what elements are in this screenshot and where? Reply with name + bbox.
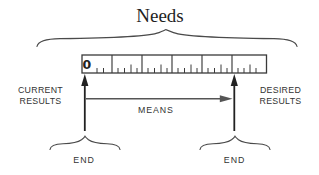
ruler-body xyxy=(82,55,267,73)
desired-results-label: DESIRED RESULTS xyxy=(259,85,301,107)
desired-results-line1: DESIRED xyxy=(260,85,301,95)
means-arrow-icon xyxy=(86,95,233,102)
means-label: MEANS xyxy=(138,105,174,115)
current-results-label: CURRENT RESULTS xyxy=(18,85,63,107)
needs-brace-icon xyxy=(37,30,297,47)
needs-title: Needs xyxy=(136,5,183,26)
end-label-right: END xyxy=(224,155,245,165)
end-brace-left-icon xyxy=(50,136,120,149)
desired-results-line2: RESULTS xyxy=(259,96,301,106)
current-results-line2: RESULTS xyxy=(19,96,61,106)
needs-assessment-diagram: Needs xyxy=(0,0,319,175)
end-brace-right-icon xyxy=(200,136,270,149)
ruler: 0 xyxy=(82,55,267,73)
current-results-line1: CURRENT xyxy=(18,85,63,95)
end-label-left: END xyxy=(73,155,94,165)
diagram-svg: Needs xyxy=(0,0,319,175)
ruler-origin-label: 0 xyxy=(82,57,91,72)
current-results-arrow-icon xyxy=(81,74,88,131)
desired-results-arrow-icon xyxy=(231,74,238,131)
